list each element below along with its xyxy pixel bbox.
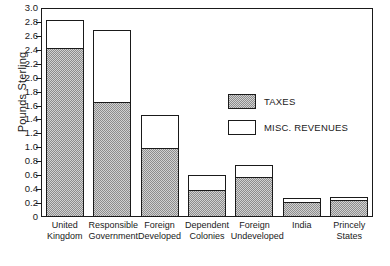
- x-category-label: India: [278, 220, 325, 231]
- x-category-label-line: Dependent: [183, 220, 230, 231]
- legend-item[interactable]: MISC. REVENUES: [228, 119, 378, 135]
- x-category-label: UnitedKingdom: [41, 220, 88, 242]
- y-tick-label: 0.4: [12, 184, 38, 194]
- bar-chart: Pounds Sterling 3.02.82.62.42.22.01.81.6…: [0, 0, 390, 266]
- y-tick-label: 2.4: [12, 45, 38, 55]
- legend-swatch-misc: [228, 120, 256, 135]
- stacked-bar[interactable]: [188, 175, 226, 217]
- bar-segment-misc-revenues[interactable]: [141, 115, 179, 149]
- y-tick-label: 2.8: [12, 17, 38, 27]
- y-tick-label: 2.2: [12, 59, 38, 69]
- x-category-label-line: States: [326, 231, 373, 242]
- x-category-label-line: Developed: [136, 231, 183, 242]
- x-category-label-line: Undeveloped: [231, 231, 278, 242]
- y-tick-label: 1.6: [12, 101, 38, 111]
- y-tick-label: 1.4: [12, 114, 38, 124]
- x-category-label-line: Kingdom: [41, 231, 88, 242]
- x-axis-category-labels: UnitedKingdomResponsibleGovernmentForeig…: [41, 220, 373, 264]
- stacked-bar[interactable]: [330, 197, 368, 217]
- bar-segment-taxes[interactable]: [283, 202, 321, 217]
- stacked-bar[interactable]: [235, 165, 273, 217]
- bar-segment-misc-revenues[interactable]: [188, 175, 226, 192]
- y-tick-label: 0.6: [12, 170, 38, 180]
- stacked-bar[interactable]: [93, 30, 131, 217]
- y-tick-label: 0.8: [12, 156, 38, 166]
- y-tick-label: 1.2: [12, 128, 38, 138]
- x-category-label: DependentColonies: [183, 220, 230, 242]
- bar-group[interactable]: [141, 8, 179, 217]
- x-category-label: PrincelyStates: [326, 220, 373, 242]
- bar-segment-taxes[interactable]: [93, 102, 131, 217]
- y-tick-label: 0: [12, 212, 38, 222]
- x-category-label-line: Foreign: [231, 220, 278, 231]
- x-category-label: ForeignUndeveloped: [231, 220, 278, 242]
- legend-label: TAXES: [264, 96, 295, 107]
- stacked-bar[interactable]: [141, 115, 179, 217]
- x-category-label: ForeignDeveloped: [136, 220, 183, 242]
- x-category-label-line: Princely: [326, 220, 373, 231]
- bar-group[interactable]: [46, 8, 84, 217]
- x-category-label-line: Foreign: [136, 220, 183, 231]
- x-category-label-line: Responsible: [88, 220, 135, 231]
- y-tick-label: 0.2: [12, 198, 38, 208]
- chart-legend: TAXESMISC. REVENUES: [228, 93, 378, 145]
- bar-segment-taxes[interactable]: [46, 48, 84, 217]
- y-tick-label: 2.0: [12, 73, 38, 83]
- bar-segment-misc-revenues[interactable]: [93, 30, 131, 104]
- bar-segment-taxes[interactable]: [330, 200, 368, 217]
- bar-segment-taxes[interactable]: [188, 190, 226, 217]
- stacked-bar[interactable]: [283, 198, 321, 217]
- x-category-label: ResponsibleGovernment: [88, 220, 135, 242]
- bar-segment-taxes[interactable]: [235, 177, 273, 217]
- x-category-label-line: United: [41, 220, 88, 231]
- x-category-label-line: Government: [88, 231, 135, 242]
- bar-segment-taxes[interactable]: [141, 148, 179, 217]
- bar-segment-misc-revenues[interactable]: [46, 20, 84, 49]
- x-category-label-line: India: [278, 220, 325, 231]
- legend-swatch-taxes: [228, 94, 256, 109]
- y-tick-label: 3.0: [12, 3, 38, 13]
- y-tick-label: 1.8: [12, 87, 38, 97]
- y-tick-label: 1.0: [12, 142, 38, 152]
- x-category-label-line: Colonies: [183, 231, 230, 242]
- legend-item[interactable]: TAXES: [228, 93, 378, 109]
- bar-group[interactable]: [93, 8, 131, 217]
- bar-group[interactable]: [188, 8, 226, 217]
- y-tick-label: 2.6: [12, 31, 38, 41]
- legend-label: MISC. REVENUES: [264, 122, 348, 133]
- stacked-bar[interactable]: [46, 20, 84, 217]
